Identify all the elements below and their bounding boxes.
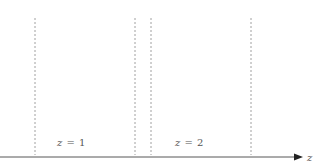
region-value: 1 — [79, 137, 85, 148]
svg-text:z = 1: z = 1 — [56, 137, 85, 148]
arrowhead-icon — [294, 154, 303, 161]
region-var: z — [174, 137, 181, 148]
region-label-2: z = 2 — [174, 137, 203, 148]
region-value: 2 — [197, 137, 203, 148]
svg-text:z = 2: z = 2 — [174, 137, 203, 148]
dashed-boundaries — [35, 18, 251, 155]
region-eq: = — [66, 137, 74, 148]
axis-label: z — [306, 152, 313, 163]
region-var: z — [56, 137, 63, 148]
region-label-1: z = 1 — [56, 137, 85, 148]
region-eq: = — [184, 137, 192, 148]
interval-diagram: z z = 1 z = 2 — [0, 0, 316, 168]
